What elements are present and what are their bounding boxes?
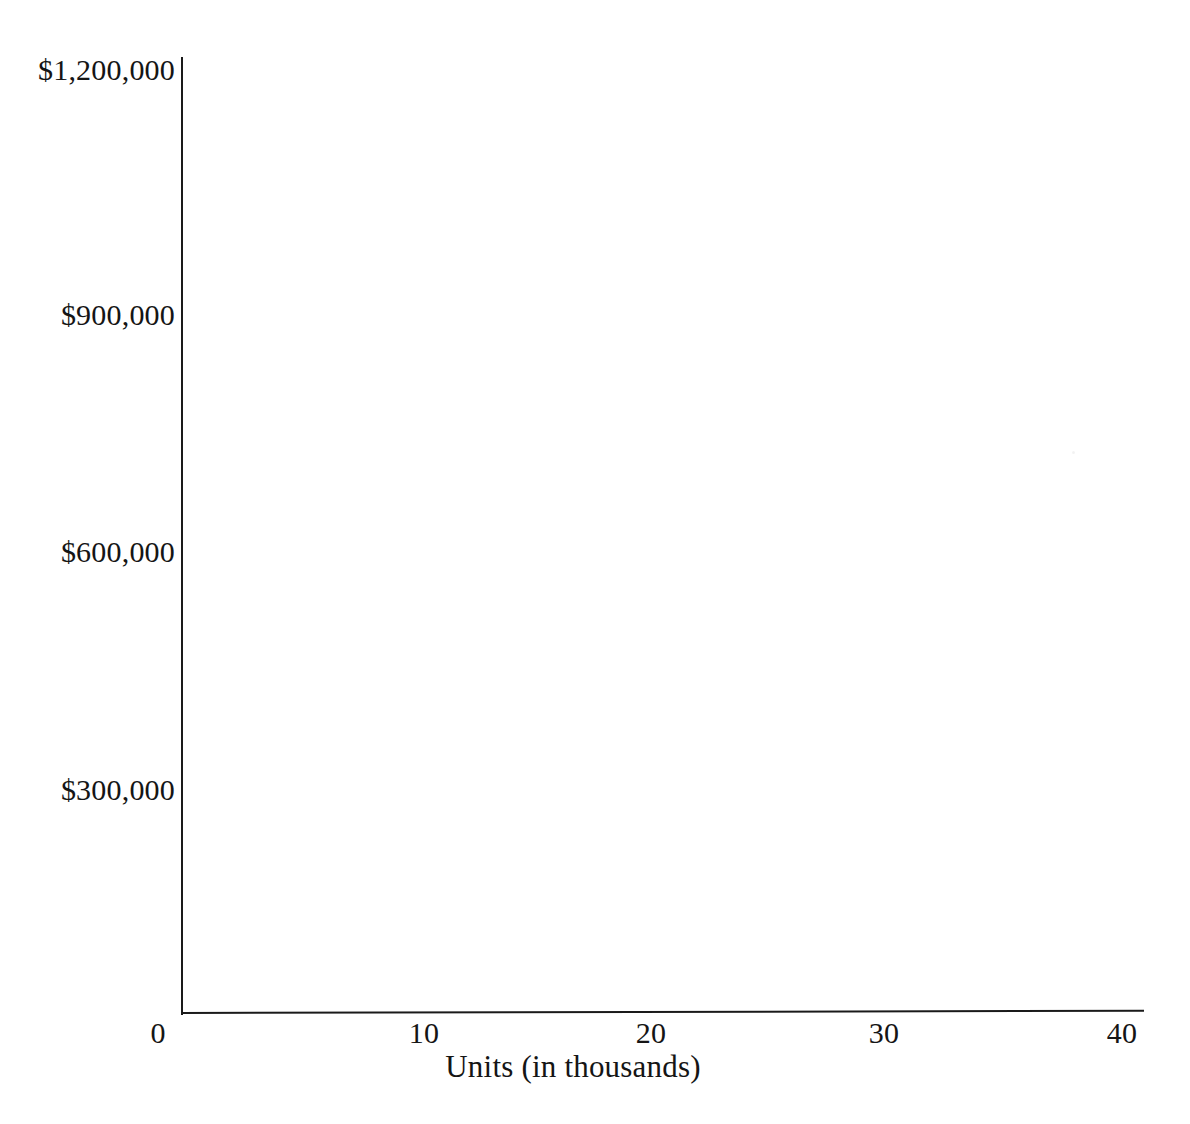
- y-axis-tick-label-1200000: $1,200,000: [38, 55, 175, 85]
- plot-area: [183, 57, 1144, 1012]
- x-axis-title: Units (in thousands): [0, 1051, 1190, 1084]
- y-axis-tick-label-300000: $300,000: [61, 775, 175, 805]
- x-axis-tick-label-20: 20: [636, 1018, 666, 1048]
- scan-artifact-speck: [1072, 451, 1075, 454]
- y-axis-tick-label-600000: $600,000: [61, 537, 175, 567]
- x-axis-tick-label-40: 40: [1107, 1018, 1137, 1048]
- y-axis-tick-label-900000: $900,000: [61, 300, 175, 330]
- x-axis-tick-label-0: 0: [150, 1018, 165, 1048]
- x-axis-tick-label-10: 10: [409, 1018, 439, 1048]
- chart-canvas: $1,200,000 $900,000 $600,000 $300,000 0 …: [0, 0, 1190, 1124]
- x-axis-title-text: Units (in thousands): [445, 1051, 700, 1084]
- x-axis-tick-label-30: 30: [869, 1018, 899, 1048]
